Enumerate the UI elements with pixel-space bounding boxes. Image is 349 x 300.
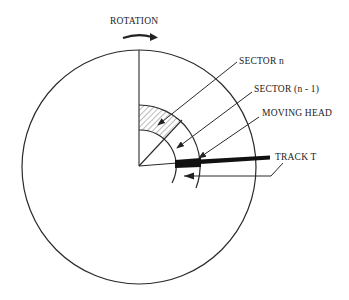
rotation-arrow-icon xyxy=(123,35,152,38)
sector-n-hatched xyxy=(139,105,180,139)
sector-n-minus-1-label: SECTOR (n - 1) xyxy=(254,84,319,95)
track-t-label: TRACK T xyxy=(275,152,317,162)
moving-head-label: MOVING HEAD xyxy=(262,108,332,118)
rotation-indicator: ROTATION xyxy=(110,16,158,41)
rotation-label: ROTATION xyxy=(110,16,158,26)
moving-head-leader xyxy=(199,117,259,158)
track-inner-arc xyxy=(139,130,176,183)
sector-n-label: SECTOR n xyxy=(239,56,284,66)
head-arm xyxy=(200,156,270,165)
diagram-canvas: ROTATION xyxy=(0,0,349,300)
rotation-arrowhead-icon xyxy=(150,33,158,41)
track-t-arrowhead-icon xyxy=(184,173,194,180)
sector-n-leader xyxy=(158,62,237,125)
head-block xyxy=(175,158,201,168)
disk-diagram: ROTATION xyxy=(0,0,349,300)
